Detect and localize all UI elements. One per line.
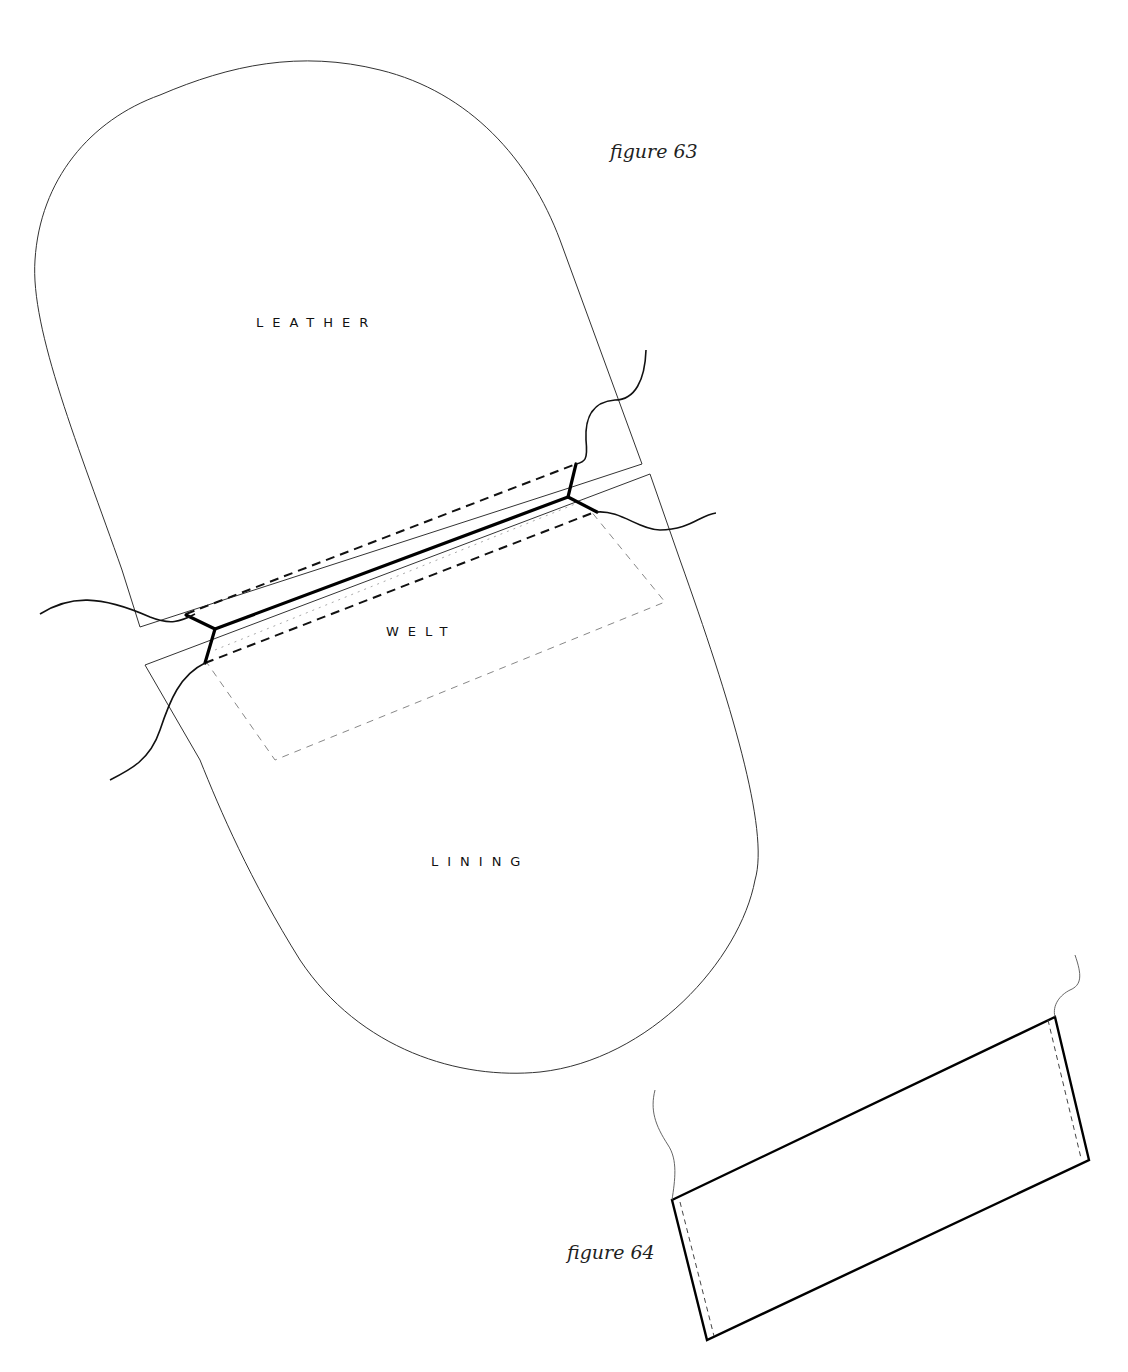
figure-63: LEATHER WELT LINING figure 63 xyxy=(35,61,759,1073)
thread-tail-strip-right xyxy=(1054,955,1079,1017)
welt-seam-line xyxy=(215,497,568,629)
pattern-diagram: LEATHER WELT LINING figure 63 figure 64 xyxy=(0,0,1128,1372)
leather-label: LEATHER xyxy=(256,315,377,330)
thread-tail-left-lower xyxy=(110,663,205,780)
figure-64: figure 64 xyxy=(565,955,1089,1340)
welt-strip-stitch-left xyxy=(680,1202,714,1336)
figure-64-caption: figure 64 xyxy=(565,1241,655,1263)
welt-seam-left-fork xyxy=(186,615,215,663)
welt-strip-outline xyxy=(672,1017,1089,1340)
thread-tail-strip-left xyxy=(653,1090,675,1200)
lining-piece-outline xyxy=(145,474,758,1073)
welt-stitch-top xyxy=(186,464,576,614)
thread-tail-right-lower xyxy=(597,512,716,530)
leather-piece-outline xyxy=(35,61,642,627)
thread-tail-left-upper xyxy=(40,600,195,622)
lining-label: LINING xyxy=(431,854,529,869)
figure-63-caption: figure 63 xyxy=(608,140,698,162)
welt-strip-stitch-right xyxy=(1048,1020,1081,1158)
welt-label: WELT xyxy=(386,624,456,639)
